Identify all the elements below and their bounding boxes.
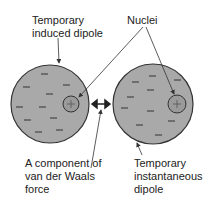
label-line: Temporary [32,14,103,27]
instantaneous-dipole-label: Temporary instantaneous dipole [134,157,203,196]
instant-leader [137,143,142,155]
label-line: induced dipole [32,27,103,40]
left-atom [11,65,89,143]
force-double-arrow [92,100,110,108]
induced-dipole-label: Temporary induced dipole [32,14,103,40]
label-line: dipole [134,183,203,196]
right-atom [113,64,193,144]
induced-leader [58,38,59,63]
label-line: instantaneous [134,170,203,183]
label-line: A component of [25,157,101,170]
label-line: van der Waals [25,170,101,183]
label-line: force [25,183,101,196]
van-der-waals-label: A component of van der Waals force [25,157,101,196]
label-line: Temporary [134,157,203,170]
nuclei-label: Nuclei [127,14,158,27]
